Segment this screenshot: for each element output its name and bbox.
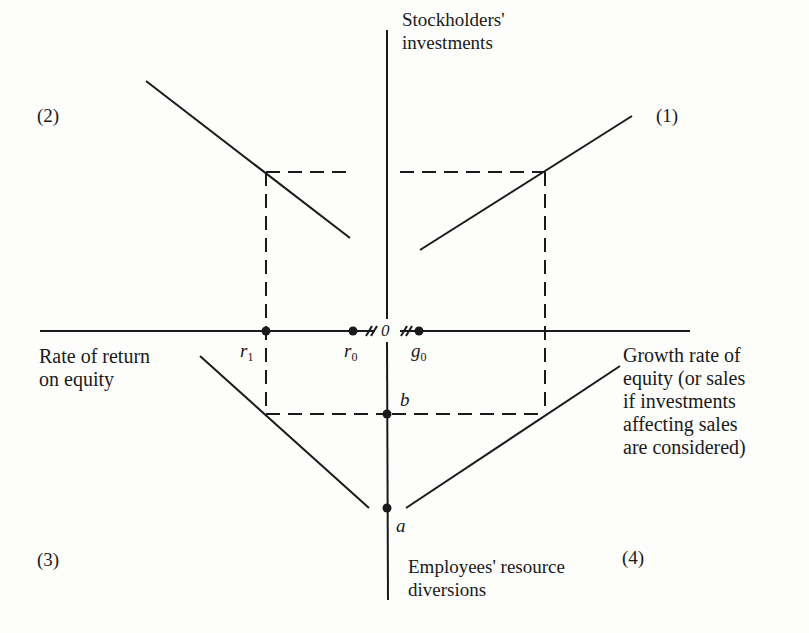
label-line: Growth rate of	[623, 344, 746, 367]
label-stockholders: Stockholders' investments	[402, 8, 505, 54]
four-quadrant-diagram	[0, 0, 809, 633]
origin-label: 0	[380, 319, 391, 342]
line-q2	[146, 81, 350, 238]
point-a	[383, 504, 392, 513]
b-label: b	[400, 388, 410, 411]
line-q3	[200, 356, 369, 508]
label-line: diversions	[408, 578, 565, 601]
label-line: Stockholders'	[402, 8, 505, 31]
label-line: investments	[402, 31, 505, 54]
label-growth-rate: Growth rate of equity (or sales if inves…	[623, 344, 746, 459]
a-label: a	[396, 514, 406, 537]
point-b	[383, 410, 392, 419]
point-g0	[415, 327, 424, 336]
g0-symbol: g	[411, 340, 421, 361]
label-line: Rate of return	[39, 345, 150, 368]
label-line: affecting sales	[623, 413, 746, 436]
g0-label: g0	[411, 339, 427, 369]
r0-subscript: 0	[351, 350, 357, 364]
label-line: equity (or sales	[623, 367, 746, 390]
r1-label: r1	[240, 339, 253, 369]
label-rate-of-return: Rate of return on equity	[39, 345, 150, 391]
line-q1	[420, 116, 632, 250]
quadrant-1-label: (1)	[656, 104, 678, 127]
label-employees: Employees' resource diversions	[408, 555, 565, 601]
r1-subscript: 1	[247, 350, 253, 364]
label-line: if investments	[623, 390, 746, 413]
quadrant-2-label: (2)	[37, 104, 59, 127]
label-line: are considered)	[623, 436, 746, 459]
r0-label: r0	[344, 339, 357, 369]
point-r1	[262, 327, 271, 336]
quadrant-4-label: (4)	[622, 546, 644, 569]
label-line: on equity	[39, 368, 150, 391]
quadrant-3-label: (3)	[37, 548, 59, 571]
line-q4	[406, 366, 620, 508]
point-r0	[349, 327, 358, 336]
g0-subscript: 0	[421, 350, 427, 364]
label-line: Employees' resource	[408, 555, 565, 578]
